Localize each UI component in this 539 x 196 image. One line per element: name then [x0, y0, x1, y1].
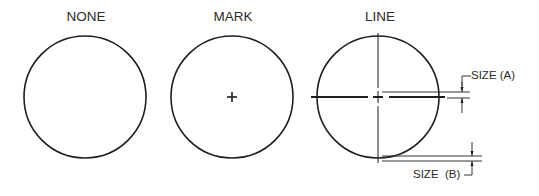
panel-none [24, 36, 146, 158]
size-b-label: SIZE (B) [413, 168, 460, 180]
center-cross-icon [227, 92, 237, 102]
arrow-up-icon [461, 98, 464, 103]
center-mark-diagram: NONE MARK LINE SIZE (A) SIZE (B) [0, 0, 539, 196]
panel-line [311, 33, 482, 175]
circle-none [24, 36, 146, 158]
arrow-down-icon [461, 87, 464, 92]
size-a-dimension [382, 76, 471, 113]
panel-title-mark: MARK [213, 9, 252, 24]
panel-mark [171, 36, 293, 158]
arrow-up-icon [471, 161, 474, 166]
panel-title-line: LINE [365, 9, 395, 24]
diagram-drawing [0, 0, 539, 196]
panel-title-none: NONE [66, 9, 105, 24]
size-a-label: SIZE (A) [471, 69, 515, 81]
arrow-down-icon [471, 151, 474, 156]
